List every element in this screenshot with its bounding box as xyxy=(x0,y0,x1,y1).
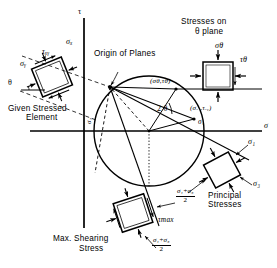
theta-plane-element xyxy=(190,50,246,102)
sigma-x-label: σₓ xyxy=(66,38,73,46)
ray-to-theta-point xyxy=(110,87,176,89)
x-point-label: (σₓ ,τₓᵧ) xyxy=(190,105,212,112)
principal-sigma1-arrow-right xyxy=(236,158,245,163)
max-shear-normal-arrow-top xyxy=(125,188,128,197)
principal-stresses-label-line2: Stresses xyxy=(208,201,241,210)
two-theta-label: 2 θ xyxy=(157,105,167,113)
tau-axis-label: τ xyxy=(78,8,81,16)
principal-element-box xyxy=(204,152,241,188)
mean-stress-fraction-bottom: σ₁+σ₃ 2 xyxy=(152,237,171,253)
tau-theta-label: τθ xyxy=(240,56,247,64)
max-shear-normal-arrow-bottom xyxy=(138,229,141,238)
max-shear-normal-arrow-left xyxy=(106,219,116,222)
max-shearing-label-line1: Max. Shearing xyxy=(53,235,108,244)
given-sigma-x-arrow-left xyxy=(27,84,35,87)
origin-of-planes-label: Origin of Planes xyxy=(94,50,155,59)
mean-stress-fraction-top: σ₁+σ₃ 2 xyxy=(176,188,195,204)
sigma-y-label: σᵧ xyxy=(20,60,26,68)
stresses-on-theta-label-line2: θ plane xyxy=(195,28,223,37)
mohrs-circle-figure: τ σ Origin of Planes Given Stressed Elem… xyxy=(0,0,277,268)
given-stressed-element xyxy=(17,43,87,111)
x-point-dot xyxy=(192,117,195,120)
principal-sigma3-leader xyxy=(240,177,252,185)
sigma-3-circle-label: σ₃ xyxy=(86,118,93,124)
theta-point-label: (σθ,τθ) xyxy=(150,78,171,85)
given-sigma-x-arrow-right xyxy=(69,67,77,70)
principal-sigma-3-label: σ₃ xyxy=(253,180,260,188)
given-stressed-element-label-line2: Element xyxy=(26,114,57,123)
origin-of-planes-leader xyxy=(111,72,118,85)
tau-max-label: τmax xyxy=(158,216,174,224)
theta-element-box xyxy=(203,62,233,90)
sigma-axis-label: σ xyxy=(264,122,268,130)
principal-sigma1-leader xyxy=(236,145,248,155)
sigma-theta-label: σθ xyxy=(215,42,223,50)
ray-to-sigma1 xyxy=(110,87,249,160)
mean-stress-denominator-top: 2 xyxy=(176,197,195,205)
diagram-canvas xyxy=(0,0,277,268)
ray-to-x-point xyxy=(110,87,194,119)
sigma-1-circle-label: σ₁ xyxy=(198,119,204,127)
tau-xy-label: τₓᵧ xyxy=(42,48,50,56)
mean-stress-denominator-bottom: 2 xyxy=(152,246,171,254)
stresses-on-theta-label-line1: Stresses on xyxy=(181,18,226,27)
max-shearing-label-line2: Stress xyxy=(79,245,103,254)
theta-angle-label: θ xyxy=(8,79,12,87)
radius-to-origin-of-planes-dashed xyxy=(110,87,149,131)
principal-sigma-1-label: σ₁ xyxy=(248,138,255,146)
two-theta-arc xyxy=(169,103,172,114)
principal-sigma3-arrow-top xyxy=(210,148,215,157)
max-shear-mean-leader-top xyxy=(157,203,175,207)
